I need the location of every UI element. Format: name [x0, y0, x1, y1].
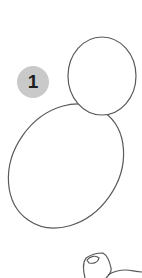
sketch-illustration	[0, 0, 142, 278]
step-number-badge: 1	[17, 66, 49, 98]
hand-icon	[84, 253, 142, 278]
step-number: 1	[28, 71, 39, 93]
drawing-canvas: 1	[0, 0, 142, 278]
head-circle	[68, 37, 136, 115]
